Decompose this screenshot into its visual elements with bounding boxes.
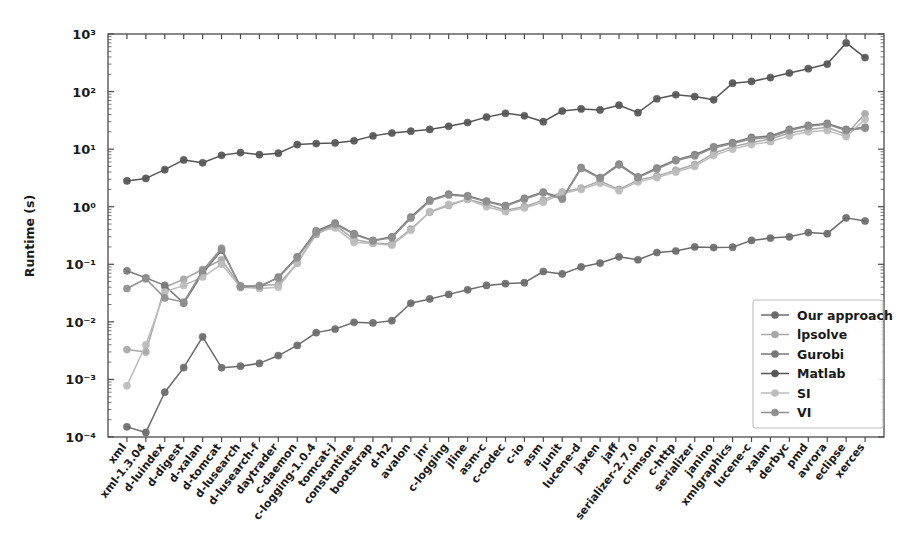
- data-point: [237, 363, 244, 370]
- data-point: [615, 253, 622, 260]
- data-point: [426, 198, 433, 205]
- data-point: [445, 201, 452, 208]
- data-point: [805, 123, 812, 130]
- data-point: [634, 256, 641, 263]
- data-point: [691, 93, 698, 100]
- data-point: [843, 214, 850, 221]
- data-point: [729, 140, 736, 147]
- data-point: [597, 106, 604, 113]
- data-point: [275, 150, 282, 157]
- data-point: [483, 282, 490, 289]
- data-point: [426, 126, 433, 133]
- data-point: [218, 245, 225, 252]
- y-axis-title-text: Runtime (s): [22, 195, 37, 277]
- data-point: [767, 134, 774, 141]
- data-point: [180, 364, 187, 371]
- y-tick-label: 10⁰: [72, 200, 96, 215]
- data-point: [256, 151, 263, 158]
- data-point: [824, 61, 831, 68]
- data-point: [180, 156, 187, 163]
- data-point: [180, 282, 187, 289]
- data-point: [369, 237, 376, 244]
- data-point: [407, 215, 414, 222]
- data-point: [123, 346, 130, 353]
- data-point: [786, 127, 793, 134]
- data-point: [672, 91, 679, 98]
- data-point: [615, 102, 622, 109]
- y-tick-label: 10²: [72, 85, 96, 100]
- data-point: [199, 333, 206, 340]
- data-point: [218, 152, 225, 159]
- legend-marker-icon: [771, 389, 778, 396]
- data-point: [748, 135, 755, 142]
- data-point: [710, 144, 717, 151]
- data-point: [672, 247, 679, 254]
- data-point: [332, 220, 339, 227]
- data-point: [634, 109, 641, 116]
- y-axis-title: Runtime (s): [22, 195, 37, 277]
- data-point: [407, 300, 414, 307]
- data-point: [313, 140, 320, 147]
- legend-label: lpsolve: [797, 327, 847, 342]
- y-tick-label: 10⁻¹: [65, 257, 96, 272]
- data-point: [843, 127, 850, 134]
- data-point: [861, 125, 868, 132]
- data-point: [350, 239, 357, 246]
- y-tick-label: 10⁻⁴: [65, 430, 96, 445]
- data-point: [142, 175, 149, 182]
- legend-marker-icon: [771, 350, 778, 357]
- data-point: [559, 270, 566, 277]
- data-point: [521, 279, 528, 286]
- data-point: [388, 317, 395, 324]
- y-tick-label: 10³: [72, 27, 96, 42]
- data-point: [350, 137, 357, 144]
- legend-label: Matlab: [797, 366, 846, 381]
- data-point: [521, 196, 528, 203]
- chart-legend[interactable]: Our approachlpsolveGurobiMatlabSIVI: [753, 300, 893, 428]
- data-point: [350, 319, 357, 326]
- data-point: [729, 80, 736, 87]
- data-point: [578, 165, 585, 172]
- data-point: [502, 280, 509, 287]
- data-point: [180, 299, 187, 306]
- data-point: [861, 54, 868, 61]
- data-point: [142, 429, 149, 436]
- data-point: [275, 352, 282, 359]
- data-point: [464, 193, 471, 200]
- data-point: [786, 69, 793, 76]
- data-point: [218, 364, 225, 371]
- data-point: [615, 187, 622, 194]
- data-point: [521, 204, 528, 211]
- data-point: [388, 129, 395, 136]
- data-point: [672, 157, 679, 164]
- data-point: [142, 275, 149, 282]
- data-point: [521, 112, 528, 119]
- data-point: [691, 243, 698, 250]
- legend-marker-icon: [771, 311, 778, 318]
- legend-label: SI: [797, 386, 811, 401]
- data-point: [540, 199, 547, 206]
- data-point: [597, 259, 604, 266]
- data-point: [332, 325, 339, 332]
- data-point: [729, 244, 736, 251]
- data-point: [161, 166, 168, 173]
- y-tick-label: 10⁻²: [65, 315, 96, 330]
- legend-marker-icon: [771, 331, 778, 338]
- data-point: [445, 191, 452, 198]
- data-point: [407, 128, 414, 135]
- data-point: [786, 233, 793, 240]
- data-point: [445, 123, 452, 130]
- data-point: [464, 286, 471, 293]
- data-point: [123, 285, 130, 292]
- data-point: [445, 291, 452, 298]
- data-point: [161, 294, 168, 301]
- legend-label: Our approach: [797, 308, 893, 323]
- data-point: [805, 65, 812, 72]
- data-point: [256, 360, 263, 367]
- data-point: [578, 186, 585, 193]
- y-tick-label: 10⁻³: [65, 372, 96, 387]
- data-point: [748, 78, 755, 85]
- data-point: [142, 341, 149, 348]
- data-point: [161, 282, 168, 289]
- data-point: [256, 282, 263, 289]
